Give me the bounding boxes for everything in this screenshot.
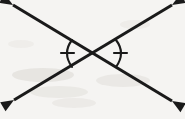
scan-artifact-1	[30, 86, 88, 98]
scan-artifact-2	[96, 74, 150, 87]
scan-artifact-5	[8, 40, 34, 48]
geometry-diagram-svg	[0, 0, 185, 119]
scan-artifact-3	[52, 98, 96, 108]
geometry-figure-canvas: Vertical angles formed by two intersecti…	[0, 0, 185, 119]
